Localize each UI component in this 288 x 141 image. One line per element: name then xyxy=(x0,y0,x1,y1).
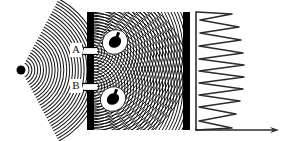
slit-label-B: B xyxy=(72,79,79,91)
slit-barrier-segment xyxy=(87,91,94,131)
detection-screen xyxy=(183,12,190,130)
slit-aperture-B xyxy=(84,84,97,91)
detection-screen-bar xyxy=(183,12,190,130)
slit-barrier-segment xyxy=(87,55,94,84)
slit-aperture-A xyxy=(84,48,97,55)
slit-barrier-segment xyxy=(87,12,94,48)
point-source xyxy=(17,66,26,75)
slit-label-A: A xyxy=(72,43,80,55)
figure-canvas: AB xyxy=(0,0,288,141)
double-slit-figure: AB xyxy=(0,0,288,141)
